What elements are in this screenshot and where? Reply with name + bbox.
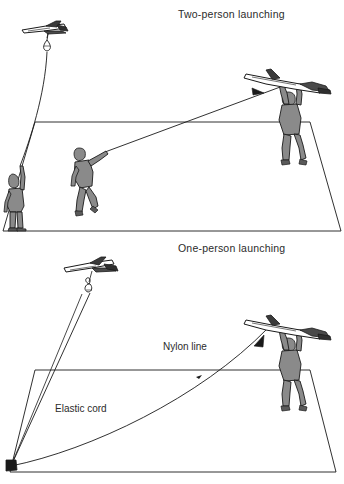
elastic-cord-line [11,293,90,466]
glider-icon-held-bottom [244,315,331,340]
elastic-cord-second-leg [11,294,82,466]
anchor-stake-icon [6,460,17,471]
two-person-scene-drawing [0,0,344,238]
tow-line-with-arrow [105,83,291,152]
glider-icon-top [22,21,68,38]
glider-icon-bottom [64,257,118,282]
panel-two-person-launching: Two-person launching [0,0,344,238]
nylon-line-with-arrow [11,328,268,466]
launch-line-vertical [20,52,47,166]
tow-hook-icon [85,278,92,292]
person-running-pulling-line [71,148,108,216]
person-standing-holding-line [4,166,26,231]
panel-one-person-launching: One-person launching Nylon line Elastic … [0,238,344,484]
person-holding-glider-overhead-top [279,83,307,165]
figure-root: Two-person launching [0,0,344,484]
one-person-scene-drawing [0,238,344,484]
